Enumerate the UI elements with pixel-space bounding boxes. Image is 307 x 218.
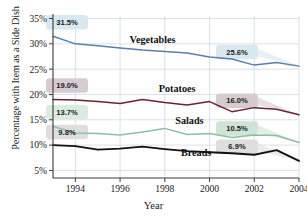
svg-text:25%: 25%: [29, 64, 47, 75]
svg-text:35%: 35%: [29, 13, 47, 24]
svg-text:Salads: Salads: [175, 115, 203, 126]
svg-text:5%: 5%: [34, 165, 47, 176]
callout-value: 10.5%: [226, 124, 248, 133]
line-chart: 5%10%15%20%25%30%35%19941996199820002002…: [0, 0, 307, 218]
svg-text:2002: 2002: [245, 183, 264, 194]
svg-text:30%: 30%: [29, 38, 47, 49]
callout-value: 19.0%: [56, 81, 78, 90]
callout-value: 6.9%: [228, 142, 246, 151]
svg-text:1998: 1998: [155, 183, 174, 194]
series-labels: VegetablesPotatoesSaladsBreads: [130, 34, 212, 157]
svg-text:10%: 10%: [29, 139, 47, 150]
callout-value: 31.5%: [56, 18, 78, 27]
callout-value: 16.0%: [226, 96, 248, 105]
callout-value: 13.7%: [56, 108, 78, 117]
y-axis-title-wrap: Percentage with Item as a Side Dish: [8, 0, 22, 164]
svg-text:2004: 2004: [289, 183, 307, 194]
svg-text:1994: 1994: [66, 183, 85, 194]
y-axis-title: Percentage with Item as a Side Dish: [10, 6, 21, 150]
svg-text:1996: 1996: [110, 183, 129, 194]
callout-value: 25.6%: [226, 48, 248, 57]
chart-container: 5%10%15%20%25%30%35%19941996199820002002…: [0, 0, 307, 218]
svg-text:20%: 20%: [29, 89, 47, 100]
svg-text:2000: 2000: [200, 183, 219, 194]
callout-value: 9.8%: [58, 128, 76, 137]
svg-text:15%: 15%: [29, 114, 47, 125]
svg-text:Potatoes: Potatoes: [159, 83, 196, 94]
x-axis-title: Year: [0, 200, 307, 211]
svg-text:Vegetables: Vegetables: [130, 34, 176, 45]
svg-text:Breads: Breads: [181, 147, 211, 158]
